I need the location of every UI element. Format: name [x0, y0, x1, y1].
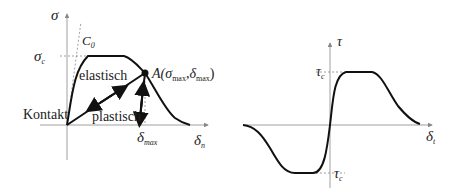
left-diagram: σ σc C0 elastisch plastisch Kontakt A(σm… — [23, 7, 215, 160]
shear-curve — [243, 72, 420, 173]
delta-n-axis-label: δn — [194, 132, 205, 150]
sigma-c-label: σc — [34, 48, 45, 66]
contact-label: Kontakt — [23, 107, 68, 122]
point-a-marker — [142, 70, 149, 77]
unload-arrow — [92, 95, 112, 108]
tau-axis-label: τ — [337, 34, 343, 49]
c0-label: C0 — [82, 33, 95, 50]
tau-c-bottom-label: τc — [334, 166, 343, 183]
point-a-label: A(σmax,δmax) — [151, 66, 215, 83]
delta-t-axis-label: δt — [426, 128, 436, 146]
tau-c-top-label: τc — [316, 64, 325, 81]
right-diagram: τ τc τc δt — [243, 34, 436, 188]
diagram-canvas: σ σc C0 elastisch plastisch Kontakt A(σm… — [0, 0, 456, 194]
delta-max-label: δmax — [137, 129, 158, 147]
elastic-label: elastisch — [79, 68, 127, 83]
plastic-label: plastisch — [92, 109, 141, 124]
sigma-axis-label: σ — [51, 7, 59, 23]
